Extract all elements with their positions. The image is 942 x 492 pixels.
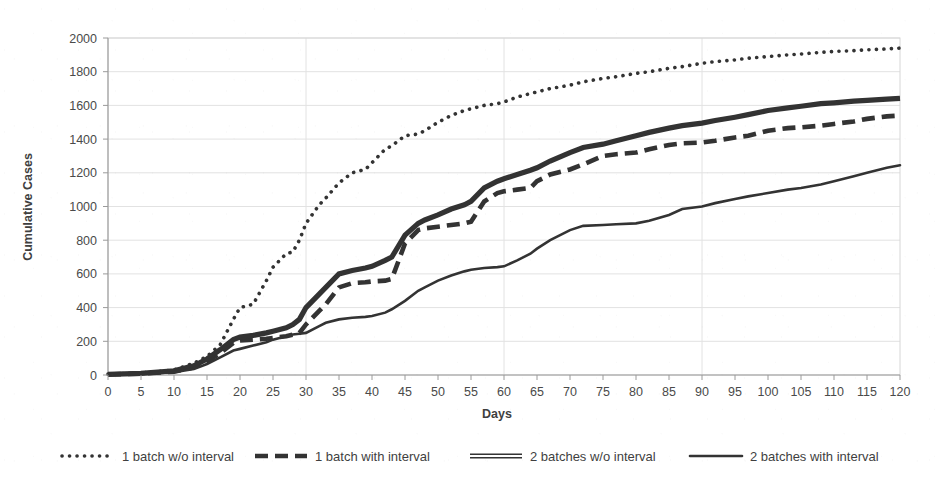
x-tick-label: 75	[596, 385, 610, 399]
x-tick-label: 95	[728, 385, 742, 399]
x-tick-label: 50	[431, 385, 445, 399]
y-tick-label: 1200	[69, 166, 97, 180]
legend-item[interactable]: 1 batch w/o interval	[62, 449, 234, 464]
x-tick-label: 55	[464, 385, 478, 399]
legend-label: 1 batch w/o interval	[122, 449, 234, 464]
x-tick-label: 10	[167, 385, 181, 399]
y-tick-label: 1800	[69, 65, 97, 79]
x-tick-label: 100	[758, 385, 779, 399]
legend-item[interactable]: 1 batch with interval	[255, 449, 430, 464]
legend-item[interactable]: 2 batches w/o interval	[470, 449, 656, 464]
x-tick-label: 115	[857, 385, 877, 399]
x-tick-label: 60	[497, 385, 511, 399]
x-axis-title: Days	[482, 407, 512, 421]
y-axis-title: Cumulative Cases	[21, 153, 35, 261]
y-tick-label: 600	[76, 267, 97, 281]
gridlines	[108, 38, 900, 375]
x-tick-label: 20	[233, 385, 247, 399]
x-tick-label: 5	[138, 385, 145, 399]
x-tick-label: 30	[299, 385, 313, 399]
legend-label: 2 batches with interval	[750, 449, 879, 464]
y-tick-label: 1000	[69, 200, 97, 214]
x-tick-label: 35	[332, 385, 346, 399]
y-axis-ticks: 0200400600800100012001400160018002000	[69, 32, 108, 383]
y-tick-label: 800	[76, 234, 97, 248]
x-tick-label: 65	[530, 385, 544, 399]
y-tick-label: 1600	[69, 99, 97, 113]
x-tick-label: 45	[398, 385, 412, 399]
x-tick-label: 15	[200, 385, 214, 399]
chart-legend: 1 batch w/o interval1 batch with interva…	[62, 449, 879, 464]
x-tick-label: 25	[266, 385, 280, 399]
y-tick-label: 1400	[69, 133, 97, 147]
x-tick-label: 85	[662, 385, 676, 399]
legend-label: 1 batch with interval	[315, 449, 430, 464]
x-tick-label: 105	[791, 385, 812, 399]
legend-item[interactable]: 2 batches with interval	[690, 449, 879, 464]
x-tick-label: 110	[824, 385, 844, 399]
legend-label: 2 batches w/o interval	[530, 449, 656, 464]
x-tick-label: 70	[563, 385, 577, 399]
x-tick-label: 40	[365, 385, 379, 399]
x-tick-label: 80	[629, 385, 643, 399]
x-axis-ticks: 0510152025303540455055606570758085909510…	[105, 375, 911, 399]
y-tick-label: 400	[76, 301, 97, 315]
x-tick-label: 0	[105, 385, 112, 399]
chart-figure: 0510152025303540455055606570758085909510…	[0, 0, 942, 492]
y-tick-label: 200	[76, 335, 97, 349]
y-tick-label: 0	[90, 369, 97, 383]
x-tick-label: 90	[695, 385, 709, 399]
y-tick-label: 2000	[69, 32, 97, 46]
line-chart: 0510152025303540455055606570758085909510…	[0, 0, 942, 492]
x-tick-label: 120	[890, 385, 911, 399]
